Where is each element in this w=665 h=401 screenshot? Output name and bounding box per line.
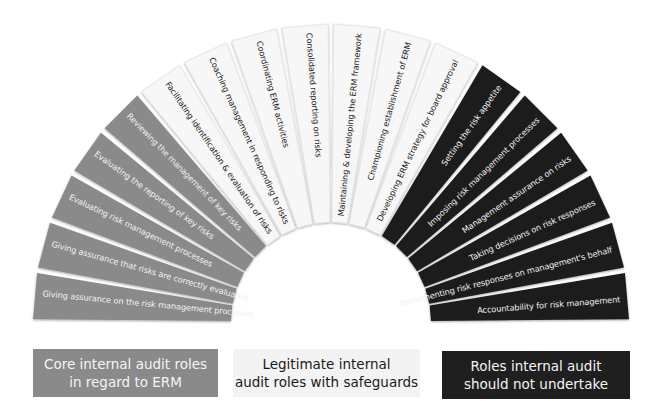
fan-blades: Giving assurance on the risk management … xyxy=(33,24,629,321)
legend-not-undertake-line1: Roles internal audit xyxy=(464,357,608,375)
legend-legitimate-line1: Legitimate internal xyxy=(235,355,418,373)
legend-core-line1: Core internal audit roles xyxy=(44,355,207,373)
legend-legitimate-line2: audit roles with safeguards xyxy=(235,373,418,391)
legend-legitimate-roles: Legitimate internal audit roles with saf… xyxy=(233,349,420,397)
legend-roles-not-undertake: Roles internal audit should not undertak… xyxy=(442,351,630,399)
legend-not-undertake-line2: should not undertake xyxy=(464,375,608,393)
erm-roles-fan-diagram: Giving assurance on the risk management … xyxy=(0,0,665,340)
legend-core-line2: in regard to ERM xyxy=(44,373,207,391)
legend-core-roles: Core internal audit roles in regard to E… xyxy=(33,349,218,397)
